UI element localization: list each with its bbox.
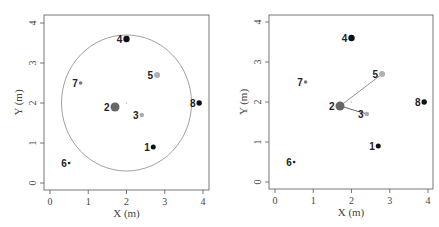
data-point-1 <box>151 145 156 150</box>
data-point-7 <box>79 81 83 85</box>
point-label-8: 8 <box>415 97 421 108</box>
y-tick-label: 2 <box>252 100 263 105</box>
point-label-7: 7 <box>72 78 78 89</box>
x-tick-label: 0 <box>273 195 278 206</box>
point-label-7: 7 <box>297 77 303 88</box>
y-tick-label: 4 <box>252 20 263 25</box>
y-tick-label: 2 <box>27 101 38 106</box>
chart-figure: 0123401234X (m)Y (m)12345678 0123401234X… <box>0 0 439 227</box>
point-label-5: 5 <box>148 70 154 81</box>
data-point-1 <box>376 144 381 149</box>
y-axis-title: Y (m) <box>237 89 250 116</box>
point-label-1: 1 <box>144 142 150 153</box>
y-tick-label: 3 <box>27 61 38 66</box>
point-label-4: 4 <box>117 34 123 45</box>
point-label-5: 5 <box>373 69 379 80</box>
y-axis-title: Y (m) <box>12 89 25 116</box>
x-tick-label: 0 <box>48 196 53 207</box>
y-tick-label: 1 <box>27 141 38 146</box>
point-label-2: 2 <box>329 101 335 112</box>
data-point-3 <box>365 112 370 117</box>
x-tick-label: 1 <box>86 196 91 207</box>
left-panel: 0123401234X (m)Y (m)12345678 <box>12 15 209 220</box>
data-point-6 <box>293 161 296 164</box>
x-axis-title: X (m) <box>338 206 365 219</box>
x-tick-label: 2 <box>349 195 354 206</box>
data-point-5 <box>154 72 160 78</box>
point-label-6: 6 <box>286 157 292 168</box>
point-label-1: 1 <box>369 141 375 152</box>
x-tick-label: 2 <box>124 196 129 207</box>
center-marker <box>126 102 128 104</box>
data-point-8 <box>196 100 201 105</box>
data-point-4 <box>348 35 354 41</box>
data-point-6 <box>68 162 71 165</box>
point-label-3: 3 <box>133 110 139 121</box>
x-tick-label: 1 <box>311 195 316 206</box>
point-label-2: 2 <box>104 102 110 113</box>
x-tick-label: 3 <box>387 195 392 206</box>
y-tick-label: 1 <box>252 140 263 145</box>
data-point-2 <box>111 103 120 112</box>
x-tick-label: 3 <box>162 196 167 207</box>
y-tick-label: 4 <box>27 21 38 26</box>
point-label-8: 8 <box>190 98 196 109</box>
y-tick-label: 3 <box>252 60 263 65</box>
y-tick-label: 0 <box>252 180 263 185</box>
center-marker <box>351 101 353 103</box>
data-point-8 <box>421 99 426 104</box>
point-label-6: 6 <box>61 158 67 169</box>
data-point-4 <box>123 36 129 42</box>
data-point-7 <box>304 80 308 84</box>
point-label-4: 4 <box>342 33 348 44</box>
point-label-3: 3 <box>358 109 364 120</box>
right-panel: 0123401234X (m)Y (m)12345678 <box>237 15 433 219</box>
x-axis-title: X (m) <box>113 207 140 220</box>
data-point-2 <box>336 102 345 111</box>
data-point-5 <box>379 71 385 77</box>
data-point-3 <box>140 113 145 118</box>
x-tick-label: 4 <box>426 195 431 206</box>
y-tick-label: 0 <box>27 181 38 186</box>
x-tick-label: 4 <box>201 196 206 207</box>
